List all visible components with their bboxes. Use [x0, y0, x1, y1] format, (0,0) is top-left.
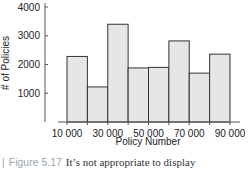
histogram-bar: [149, 67, 169, 122]
y-tick-label: 3000: [18, 30, 41, 41]
y-tick-label: 2000: [18, 59, 41, 70]
caption-text: It’s not appropriate to display: [66, 156, 196, 168]
histogram-bar: [108, 24, 128, 122]
figure-caption: |Figure 5.17It’s not appropriate to disp…: [2, 156, 195, 168]
x-tick-label: 90 000: [215, 128, 246, 139]
histogram-bar: [67, 56, 87, 122]
y-axis-ticks: 1000200030004000: [18, 2, 48, 99]
y-axis-label: # of Policies: [0, 36, 11, 90]
y-tick-label: 1000: [18, 88, 41, 99]
histogram-bar: [87, 87, 107, 122]
caption-marker: |: [2, 156, 5, 168]
figure-label: Figure 5.17: [9, 156, 62, 168]
histogram-bar: [169, 41, 189, 122]
x-tick-label: 10 000: [52, 128, 83, 139]
y-tick-label: 4000: [18, 2, 41, 13]
histogram-chart: 1000200030004000 10 00030 00050 00070 00…: [0, 0, 251, 150]
histogram-bar: [189, 73, 209, 122]
bars-group: [67, 24, 230, 122]
x-axis-label: Policy Number: [115, 136, 181, 147]
histogram-bar: [128, 68, 148, 122]
histogram-bar: [210, 54, 230, 122]
